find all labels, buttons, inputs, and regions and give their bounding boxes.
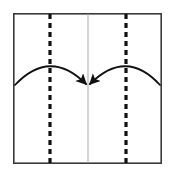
diagram-container: Paper folding diagram Square sheet with … [0, 0, 172, 174]
paper-folding-diagram [0, 0, 172, 174]
